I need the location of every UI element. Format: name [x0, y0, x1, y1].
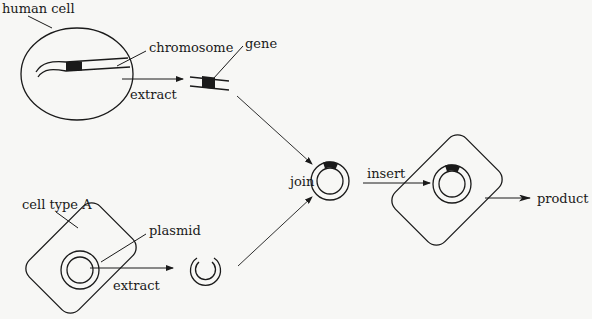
cell-type-a-membrane — [21, 198, 141, 318]
human-cell-membrane — [21, 28, 133, 120]
chromosome — [36, 58, 130, 77]
modified-cell — [387, 130, 507, 250]
human-cell-leader — [28, 16, 52, 28]
insert-label: insert — [367, 166, 406, 181]
gene-block — [202, 76, 215, 89]
join-label: join — [288, 174, 315, 189]
diagram-canvas: human cell chromosome extract gene cell … — [0, 0, 592, 319]
modified-cell-membrane — [387, 130, 507, 250]
recombinant-plasmid — [311, 162, 349, 200]
human-cell — [21, 28, 133, 120]
cell-type-a-label: cell type A — [22, 197, 92, 212]
extract-label-top: extract — [130, 87, 177, 102]
plasmid-inner — [67, 257, 93, 283]
gene-to-join-arrow — [237, 96, 312, 164]
cell-type-a — [21, 198, 141, 318]
chromosome-label: chromosome — [149, 40, 234, 55]
plasmid-to-join-arrow — [238, 197, 312, 266]
gene-fragment — [190, 76, 229, 90]
gene-label: gene — [245, 36, 277, 51]
product-label: product — [537, 191, 589, 206]
gene-band — [66, 62, 82, 72]
extract-label-bottom: extract — [113, 278, 160, 293]
human-cell-label: human cell — [2, 1, 75, 16]
plasmid-label: plasmid — [149, 223, 201, 238]
open-plasmid — [191, 258, 221, 285]
plasmid-leader — [101, 234, 146, 262]
